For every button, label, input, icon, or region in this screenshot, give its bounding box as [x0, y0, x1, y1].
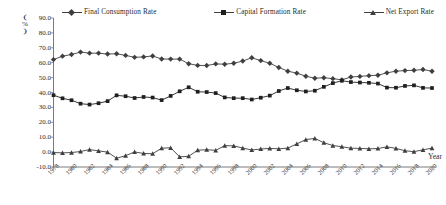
data-point-square — [259, 96, 263, 100]
data-point-diamond — [393, 69, 398, 74]
data-point-diamond — [240, 58, 245, 63]
data-point-diamond — [123, 53, 128, 58]
data-point-square — [187, 85, 191, 89]
data-point-square — [430, 86, 434, 90]
data-point-diamond — [78, 49, 83, 54]
data-point-square — [403, 84, 407, 88]
data-point-square — [97, 101, 101, 105]
data-point-square — [232, 96, 236, 100]
data-point-diamond — [357, 74, 362, 79]
data-point-diamond — [204, 63, 209, 68]
data-point-diamond — [429, 69, 434, 74]
data-point-square — [106, 99, 110, 103]
data-point-square — [322, 85, 326, 89]
data-point-square — [340, 79, 344, 83]
data-point-diamond — [402, 68, 407, 73]
data-point-diamond — [60, 53, 65, 58]
data-point-diamond — [249, 55, 254, 60]
data-point-diamond — [213, 61, 218, 66]
data-point-diamond — [276, 65, 281, 70]
data-point-square — [196, 90, 200, 94]
data-point-diamond — [267, 61, 272, 66]
data-point-square — [79, 102, 83, 106]
data-point-diamond — [366, 73, 371, 78]
data-point-square — [385, 86, 389, 90]
data-point-triangle — [430, 146, 435, 151]
data-point-square — [178, 89, 182, 93]
data-point-triangle — [123, 153, 128, 158]
data-point-diamond — [258, 58, 263, 63]
data-point-diamond — [330, 76, 335, 81]
data-point-diamond — [87, 50, 92, 55]
data-point-diamond — [150, 53, 155, 58]
data-point-square — [304, 90, 308, 94]
data-point-square — [205, 90, 209, 94]
data-point-square — [88, 103, 92, 107]
data-point-diamond — [105, 51, 110, 56]
data-point-square — [151, 96, 155, 100]
series-capital-formation-rate — [52, 79, 434, 107]
data-point-diamond — [285, 69, 290, 74]
data-point-diamond — [321, 75, 326, 80]
data-point-square — [331, 81, 335, 85]
data-point-square — [142, 95, 146, 99]
data-point-square — [70, 98, 74, 102]
data-point-square — [412, 83, 416, 87]
data-point-diamond — [51, 57, 56, 62]
data-point-square — [250, 98, 254, 102]
data-point-diamond — [303, 74, 308, 79]
data-point-square — [349, 80, 353, 84]
data-point-diamond — [312, 76, 317, 81]
data-point-square — [295, 88, 299, 92]
data-point-diamond — [141, 54, 146, 59]
data-point-diamond — [186, 61, 191, 66]
data-point-square — [421, 86, 425, 90]
data-point-diamond — [348, 74, 353, 79]
data-point-square — [115, 93, 119, 97]
data-point-diamond — [420, 67, 425, 72]
data-point-diamond — [69, 52, 74, 57]
data-point-diamond — [159, 56, 164, 61]
data-point-square — [313, 89, 317, 93]
data-point-square — [52, 93, 56, 97]
series-final-consumption-rate — [51, 49, 435, 82]
data-point-square — [358, 81, 362, 85]
data-point-square — [160, 98, 164, 102]
data-point-diamond — [231, 61, 236, 66]
data-point-square — [367, 81, 371, 85]
data-point-diamond — [375, 73, 380, 78]
data-point-triangle — [321, 140, 326, 145]
data-point-triangle — [294, 142, 299, 147]
data-point-square — [376, 82, 380, 86]
data-point-diamond — [177, 56, 182, 61]
data-point-square — [241, 96, 245, 100]
chart-plot-area — [0, 0, 446, 205]
data-point-diamond — [222, 62, 227, 67]
data-point-square — [214, 91, 218, 95]
series-net-export-rate — [51, 136, 434, 160]
chart-container: Final Consumption Rate Capital Formation… — [0, 0, 446, 205]
series-line — [54, 81, 433, 105]
data-point-square — [133, 96, 137, 100]
data-point-square — [268, 94, 272, 98]
series-line — [54, 52, 433, 80]
data-point-square — [223, 96, 227, 100]
data-point-square — [394, 86, 398, 90]
data-point-diamond — [384, 70, 389, 75]
data-point-square — [61, 96, 65, 100]
data-point-diamond — [96, 50, 101, 55]
data-point-diamond — [114, 51, 119, 56]
data-point-square — [169, 94, 173, 98]
data-point-diamond — [195, 63, 200, 68]
data-point-square — [277, 89, 281, 93]
data-point-diamond — [168, 56, 173, 61]
data-point-square — [286, 86, 290, 90]
data-point-diamond — [132, 55, 137, 60]
data-point-square — [124, 94, 128, 98]
data-point-diamond — [294, 70, 299, 75]
data-point-diamond — [411, 68, 416, 73]
